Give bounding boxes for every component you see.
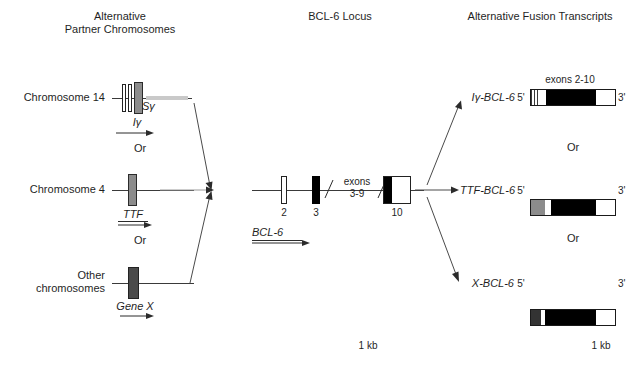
exon-2-label: 2 [272, 207, 296, 218]
transcript-1-caption: exons 2-10 [515, 74, 625, 86]
transcript-1-five-prime: 5' [514, 92, 528, 103]
bcl6-gene-label: BCL-6 [252, 226, 306, 238]
exons-3-9-label: exons 3-9 [334, 176, 380, 200]
row-label-chromosome-14: Chromosome 14 [0, 91, 105, 104]
exon-10-coding-segment [384, 177, 392, 203]
diagram-canvas: Alternative Partner Chromosomes BCL-6 Lo… [0, 0, 640, 368]
chromosome-14-exon-bar-2 [128, 84, 132, 112]
transcript-3-three-prime: 3' [618, 278, 634, 289]
transcript-1-segment-igamma [531, 90, 540, 105]
converging-arrows [150, 85, 230, 300]
chromosome-4-ttf-box [128, 174, 137, 206]
transcript-2-bar [530, 199, 616, 216]
row-label-chromosome-4: Chromosome 4 [0, 183, 105, 196]
transcript-3-five-prime: 5' [514, 278, 528, 289]
transcript-2-segment-coding [551, 200, 596, 215]
transcript-3-bar [530, 309, 616, 326]
row-label-other-chromosomes: Other chromosomes [0, 269, 105, 295]
transcript-3-segment-genex [531, 310, 541, 325]
transcript-1-bar [530, 89, 616, 106]
exon-2-box [281, 176, 287, 204]
transcript-2-three-prime: 3' [618, 185, 634, 196]
transcript-3-segment-coding [545, 310, 596, 325]
header-alternative-fusion-transcripts: Alternative Fusion Transcripts [445, 10, 635, 23]
exon-10-label: 10 [385, 207, 409, 218]
scale-bar-right-label: 1 kb [578, 340, 624, 351]
exon-3-box [312, 176, 320, 204]
other-chromosomes-direction-arrow [120, 313, 158, 321]
other-chromosomes-genex-box [128, 267, 139, 299]
transcript-2-five-prime: 5' [514, 185, 528, 196]
header-bcl6-locus: BCL-6 Locus [250, 10, 430, 23]
exon-3-label: 3 [304, 207, 328, 218]
scale-bar-center-label: 1 kb [345, 340, 391, 351]
transcript-3-segment-utr [596, 310, 615, 325]
bcl6-direction-arrow [252, 240, 314, 248]
chromosome-14-exon-bar-1 [122, 84, 126, 112]
other-chromosomes-genex-label: Gene X [106, 300, 164, 312]
transcript-1-name: Iγ-BCL-6 [455, 91, 515, 103]
transcripts-or-label-1: Or [530, 141, 616, 153]
transcript-2-name: TTF-BCL-6 [445, 184, 515, 196]
transcript-3-name: X-BCL-6 [452, 277, 514, 289]
transcript-1-segment-utr [596, 90, 615, 105]
transcript-1-three-prime: 3' [618, 92, 634, 103]
transcript-2-segment-utr [596, 200, 615, 215]
transcript-2-segment-ttf [531, 200, 545, 215]
transcript-1-segment-coding [546, 90, 596, 105]
transcripts-or-label-2: Or [530, 232, 616, 244]
header-alternative-partner-chromosomes: Alternative Partner Chromosomes [20, 10, 220, 36]
